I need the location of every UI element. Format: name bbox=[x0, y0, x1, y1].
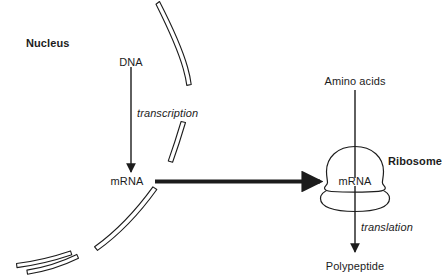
ribosome-label: Ribosome bbox=[388, 156, 442, 167]
transcription-label: transcription bbox=[137, 108, 198, 119]
polypeptide-label: Polypeptide bbox=[326, 261, 385, 272]
mrna-ribosome-label: mRNA bbox=[339, 176, 372, 187]
translation-label: translation bbox=[361, 222, 413, 233]
envelope-segment-2 bbox=[168, 122, 185, 163]
mrna-nucleus-label: mRNA bbox=[111, 176, 144, 187]
protein-synthesis-diagram: Nucleus DNA transcription mRNA Amino aci… bbox=[0, 0, 442, 279]
amino-acids-label: Amino acids bbox=[324, 76, 385, 87]
dna-label: DNA bbox=[119, 57, 143, 68]
envelope-segment-1 bbox=[156, 2, 191, 86]
envelope-segment-3 bbox=[95, 187, 157, 251]
nucleus-label: Nucleus bbox=[26, 38, 70, 49]
